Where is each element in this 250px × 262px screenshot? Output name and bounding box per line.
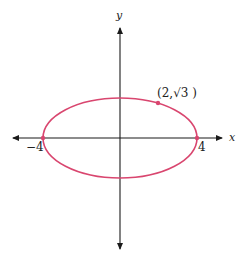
point-2-sqrt3 bbox=[156, 101, 160, 105]
tick-label-4: 4 bbox=[198, 140, 206, 154]
point-label: (2,√3 ) bbox=[157, 86, 197, 100]
ellipse-diagram: y x −4 4 (2,√3 ) bbox=[0, 0, 250, 262]
y-axis-label: y bbox=[115, 9, 123, 22]
x-axis-label: x bbox=[229, 131, 236, 144]
tick-label-neg4: −4 bbox=[26, 140, 44, 154]
